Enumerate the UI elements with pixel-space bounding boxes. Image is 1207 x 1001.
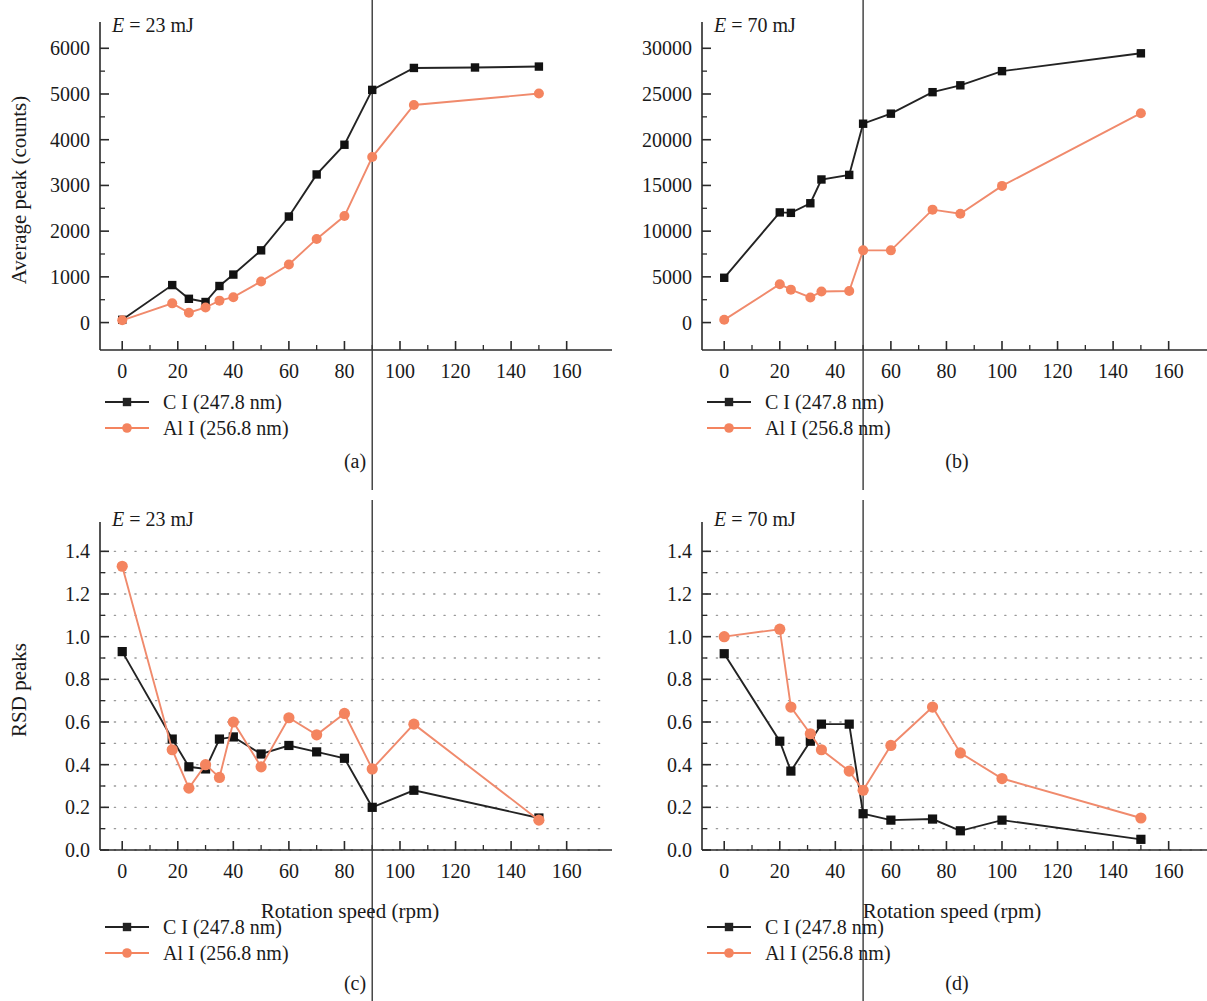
data-point: [201, 302, 211, 312]
axes: [702, 22, 1207, 350]
axes: [702, 522, 1207, 850]
x-tick-label: 120: [441, 860, 471, 882]
series-polyline: [122, 67, 539, 320]
series-al: [719, 624, 1147, 824]
legend-marker: [122, 948, 132, 958]
data-point: [257, 749, 266, 758]
data-point: [118, 647, 127, 656]
y-tick-label: 0.2: [65, 796, 90, 818]
data-point: [816, 286, 826, 296]
x-tick-label: 120: [441, 360, 471, 382]
x-tick-label: 40: [223, 360, 243, 382]
legend-marker: [123, 923, 131, 931]
legend-item-al: Al I (256.8 nm): [105, 942, 289, 965]
x-tick-label: 160: [552, 860, 582, 882]
y-tick-label: 4000: [50, 129, 90, 151]
y-tick-label: 2000: [50, 220, 90, 242]
data-point: [845, 720, 854, 729]
data-point: [285, 212, 293, 220]
data-point: [340, 754, 349, 763]
y-tick-label: 0.6: [667, 711, 692, 733]
data-point: [339, 708, 350, 719]
legend-item-al: Al I (256.8 nm): [707, 417, 891, 440]
data-point: [776, 208, 784, 216]
y-tick-label: 0.6: [65, 711, 90, 733]
data-point: [339, 211, 349, 221]
data-point: [215, 282, 223, 290]
x-tick-label: 140: [1098, 360, 1128, 382]
y-tick-label: 1.2: [667, 583, 692, 605]
data-point: [886, 816, 895, 825]
legend-item-c: C I (247.8 nm): [707, 391, 884, 414]
y-tick-label: 10000: [642, 220, 692, 242]
data-point: [533, 815, 544, 826]
x-tick-label: 40: [223, 860, 243, 882]
x-ticks: 020406080100120140160: [719, 341, 1183, 382]
data-point: [928, 814, 937, 823]
x-axis-title: Rotation speed (rpm): [261, 899, 439, 923]
chart-a: 0204060801001201401600100020003000400050…: [0, 0, 610, 490]
panel-caption: (c): [344, 972, 366, 995]
x-tick-label: 20: [168, 360, 188, 382]
data-point: [775, 737, 784, 746]
data-point: [184, 762, 193, 771]
y-tick-label: 0.4: [667, 754, 692, 776]
y-tick-label: 15000: [642, 174, 692, 196]
legend-marker: [122, 423, 132, 433]
data-point: [368, 803, 377, 812]
data-point: [1136, 835, 1145, 844]
x-tick-label: 120: [1043, 860, 1073, 882]
x-tick-label: 80: [936, 360, 956, 382]
x-tick-label: 140: [1098, 860, 1128, 882]
y-tick-label: 1.0: [667, 626, 692, 648]
data-point: [956, 81, 964, 89]
y-tick-label: 1.4: [667, 540, 692, 562]
data-point: [775, 279, 785, 289]
data-point: [228, 292, 238, 302]
data-point: [534, 89, 544, 99]
x-ticks: 020406080100120140160: [719, 841, 1183, 882]
data-point: [215, 734, 224, 743]
series-c: [118, 62, 543, 324]
data-point: [340, 141, 348, 149]
y-tick-label: 1000: [50, 266, 90, 288]
data-point: [117, 561, 128, 572]
data-point: [368, 86, 376, 94]
y-tick-label: 0.8: [667, 668, 692, 690]
data-point: [845, 171, 853, 179]
data-point: [720, 649, 729, 658]
legend-marker: [724, 948, 734, 958]
data-point: [806, 199, 814, 207]
data-point: [185, 295, 193, 303]
x-tick-label: 140: [496, 860, 526, 882]
legend: C I (247.8 nm)Al I (256.8 nm): [105, 391, 289, 440]
data-point: [720, 274, 728, 282]
data-point: [257, 246, 265, 254]
data-point: [1135, 812, 1146, 823]
legend-marker: [725, 923, 733, 931]
data-point: [367, 763, 378, 774]
legend-item-al: Al I (256.8 nm): [707, 942, 891, 965]
y-tick-label: 0: [80, 312, 90, 334]
legend-label: C I (247.8 nm): [163, 391, 282, 414]
legend-marker: [123, 398, 131, 406]
energy-annotation: E = 70 mJ: [713, 508, 796, 530]
legend-label: C I (247.8 nm): [765, 391, 884, 414]
data-point: [284, 741, 293, 750]
y-tick-label: 0.0: [65, 839, 90, 861]
panel-b: 0204060801001201401600500010000150002000…: [610, 0, 1207, 490]
x-tick-label: 100: [987, 860, 1017, 882]
x-tick-label: 80: [334, 860, 354, 882]
data-point: [816, 744, 827, 755]
legend-label: C I (247.8 nm): [163, 916, 282, 939]
y-ticks: 050001000015000200002500030000: [642, 37, 711, 333]
series-group: [719, 624, 1147, 844]
data-point: [535, 62, 543, 70]
legend-label: C I (247.8 nm): [765, 916, 884, 939]
series-al: [117, 89, 544, 326]
series-polyline: [122, 652, 539, 818]
data-point: [229, 270, 237, 278]
series-polyline: [122, 94, 539, 321]
x-tick-label: 60: [881, 860, 901, 882]
data-point: [283, 712, 294, 723]
